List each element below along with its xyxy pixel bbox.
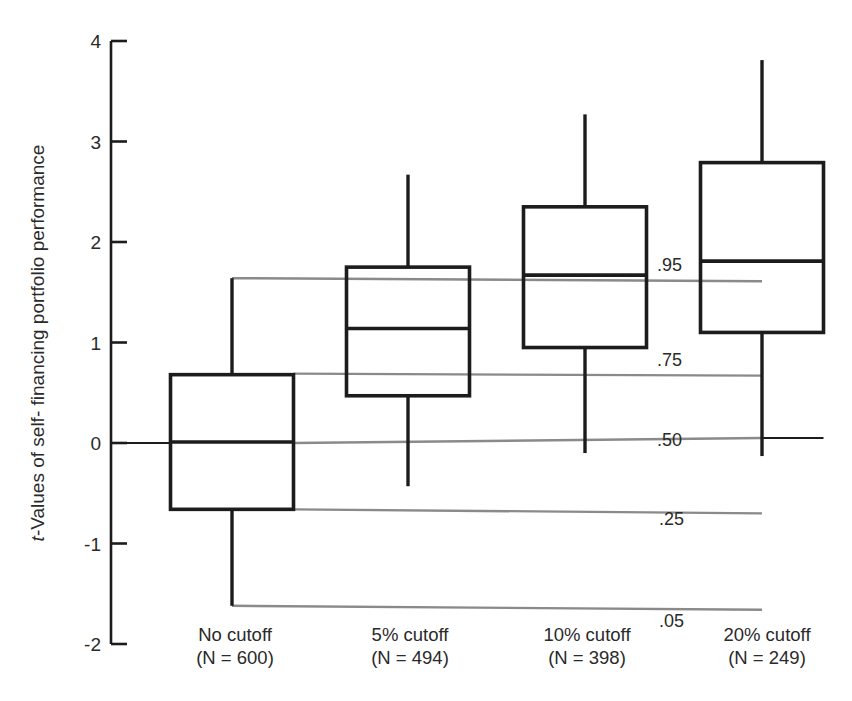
box-1 [171, 278, 294, 606]
y-axis-label: t-Values of self- financing portfolio pe… [27, 145, 48, 542]
y-tick-label: 1 [90, 333, 101, 354]
y-tick-label: 0 [90, 433, 101, 454]
y-tick-label: -2 [84, 634, 101, 655]
percentile-labels: .95.75.50.25.05 [657, 255, 684, 631]
reference-line-75 [294, 374, 763, 376]
y-tick-label: 2 [90, 232, 101, 253]
y-tick-label: 3 [90, 132, 101, 153]
box-plot-chart: t-Values of self- financing portfolio pe… [0, 0, 852, 701]
y-tick-label: -1 [84, 534, 101, 555]
percentile-label: .05 [659, 611, 684, 631]
x-axis-category-labels: No cutoff(N = 600)5% cutoff(N = 494)10% … [196, 624, 811, 668]
box-3 [524, 114, 647, 453]
box-4 [701, 60, 824, 456]
reference-line-05 [232, 606, 762, 610]
percentile-label: .75 [657, 350, 682, 370]
category-n: (N = 494) [371, 647, 449, 668]
category-name: 20% cutoff [723, 624, 811, 645]
interquartile-box [347, 267, 470, 396]
category-n: (N = 398) [548, 647, 626, 668]
reference-line-25 [294, 509, 763, 513]
y-tick-label: 4 [90, 31, 101, 52]
category-name: 5% cutoff [372, 624, 450, 645]
category-name: 10% cutoff [543, 624, 631, 645]
percentile-label: .50 [657, 430, 682, 450]
category-n: (N = 600) [196, 647, 274, 668]
reference-line-95 [232, 278, 762, 281]
box-2 [347, 175, 470, 487]
category-n: (N = 249) [728, 647, 806, 668]
interquartile-box [701, 163, 824, 333]
box-series [171, 60, 824, 606]
percentile-label: .25 [659, 509, 684, 529]
category-name: No cutoff [198, 624, 273, 645]
reference-line-50 [294, 438, 763, 443]
interquartile-box [524, 207, 647, 348]
percentile-label: .95 [657, 255, 682, 275]
y-axis: 43210-1-2 [84, 31, 127, 655]
